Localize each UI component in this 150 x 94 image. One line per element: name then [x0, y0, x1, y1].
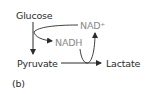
node-pyruvate: Pyruvate — [17, 58, 58, 69]
panel-label: (b) — [12, 78, 25, 89]
node-glucose: Glucose — [16, 10, 52, 21]
node-lactate: Lactate — [106, 58, 140, 69]
node-nad: NAD⁺ — [80, 20, 105, 31]
node-nadh: NADH — [55, 37, 82, 48]
